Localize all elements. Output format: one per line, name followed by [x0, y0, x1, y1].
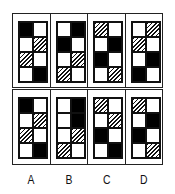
- grid-cell-black: [71, 113, 85, 128]
- grid-cell-hatched: [19, 52, 33, 67]
- grid-cell-white: [94, 143, 108, 158]
- grid-cell-black: [57, 37, 71, 52]
- option-label-b[interactable]: B: [54, 172, 84, 187]
- grid-cell-white: [108, 22, 122, 37]
- grid-cell-white: [132, 143, 146, 158]
- question-panel-2: [51, 14, 89, 87]
- grid-cell-hatched: [132, 98, 146, 113]
- grid-cell-white: [146, 37, 160, 52]
- grid-cell-hatched: [146, 143, 160, 158]
- grid-cell-white: [132, 22, 146, 37]
- grid-cell-hatched: [19, 128, 33, 143]
- options-row: [12, 89, 163, 165]
- grid-cell-black: [146, 113, 160, 128]
- grid-cell-white: [57, 52, 71, 67]
- grid-cell-hatched: [71, 52, 85, 67]
- option-panel-b[interactable]: [51, 90, 89, 164]
- grid-cell-hatched: [57, 143, 71, 158]
- grid-cell-black: [132, 67, 146, 82]
- grid-cell-black: [71, 22, 85, 37]
- grid-cell-hatched: [108, 113, 122, 128]
- cell-grid: [131, 21, 161, 83]
- cell-grid: [18, 97, 48, 159]
- grid-cell-white: [19, 67, 33, 82]
- grid-cell-white: [94, 67, 108, 82]
- grid-cell-white: [57, 22, 71, 37]
- grid-cell-black: [33, 67, 47, 82]
- grid-cell-white: [146, 128, 160, 143]
- grid-cell-black: [94, 128, 108, 143]
- grid-cell-white: [108, 52, 122, 67]
- grid-cell-white: [19, 37, 33, 52]
- option-label-a[interactable]: A: [16, 172, 46, 187]
- grid-cell-white: [19, 113, 33, 128]
- cell-grid: [131, 97, 161, 159]
- grid-cell-hatched: [108, 67, 122, 82]
- option-label-d[interactable]: D: [129, 172, 159, 187]
- question-panel-1: [13, 14, 51, 87]
- question-panel-4: [126, 14, 163, 87]
- grid-cell-white: [108, 128, 122, 143]
- grid-cell-black: [71, 98, 85, 113]
- grid-cell-black: [19, 98, 33, 113]
- grid-cell-white: [57, 113, 71, 128]
- question-panel-3: [88, 14, 126, 87]
- option-panel-c[interactable]: [88, 90, 126, 164]
- cell-grid: [18, 21, 48, 83]
- grid-cell-black: [108, 143, 122, 158]
- question-row: [12, 13, 163, 88]
- grid-cell-hatched: [33, 37, 47, 52]
- grid-cell-white: [146, 98, 160, 113]
- grid-cell-white: [146, 67, 160, 82]
- grid-cell-white: [33, 52, 47, 67]
- grid-cell-white: [71, 37, 85, 52]
- option-panel-d[interactable]: [126, 90, 163, 164]
- cell-grid: [56, 21, 86, 83]
- grid-cell-white: [71, 143, 85, 158]
- grid-cell-white: [132, 113, 146, 128]
- grid-cell-black: [94, 52, 108, 67]
- grid-cell-white: [33, 22, 47, 37]
- grid-cell-white: [57, 128, 71, 143]
- option-labels: A B C D: [12, 172, 163, 187]
- grid-cell-hatched: [71, 128, 85, 143]
- grid-cell-white: [94, 113, 108, 128]
- cell-grid: [93, 97, 123, 159]
- grid-cell-hatched: [146, 22, 160, 37]
- cell-grid: [93, 21, 123, 83]
- grid-cell-black: [146, 52, 160, 67]
- grid-cell-hatched: [33, 113, 47, 128]
- grid-cell-white: [94, 37, 108, 52]
- grid-cell-hatched: [94, 22, 108, 37]
- grid-cell-hatched: [57, 67, 71, 82]
- option-label-c[interactable]: C: [91, 172, 121, 187]
- grid-cell-white: [132, 52, 146, 67]
- grid-cell-white: [33, 128, 47, 143]
- grid-cell-white: [108, 98, 122, 113]
- grid-cell-hatched: [132, 37, 146, 52]
- grid-cell-hatched: [94, 98, 108, 113]
- grid-cell-white: [19, 143, 33, 158]
- grid-cell-white: [71, 67, 85, 82]
- option-panel-a[interactable]: [13, 90, 51, 164]
- grid-cell-white: [33, 98, 47, 113]
- grid-cell-black: [108, 37, 122, 52]
- cell-grid: [56, 97, 86, 159]
- grid-cell-black: [132, 128, 146, 143]
- grid-cell-black: [33, 143, 47, 158]
- grid-cell-white: [57, 98, 71, 113]
- grid-cell-black: [19, 22, 33, 37]
